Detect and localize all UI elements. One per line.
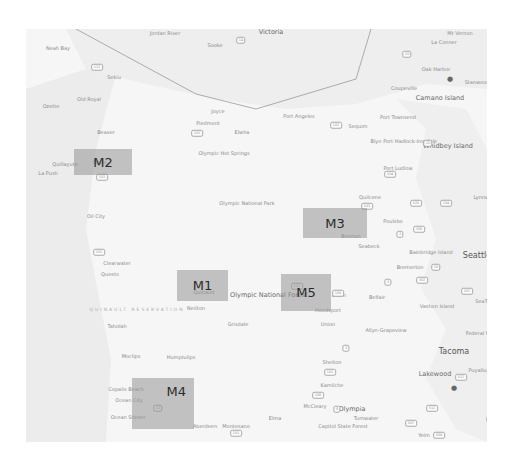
marker-label: M1	[193, 278, 213, 293]
highway-shield: 101	[230, 430, 242, 437]
marker-label: M3	[325, 216, 345, 231]
place-label: Camano Island	[416, 95, 464, 102]
place-label: Oak Harbor	[422, 67, 451, 72]
pacific-ocean	[26, 69, 116, 442]
place-label: Montesano	[222, 424, 249, 429]
marker-m3[interactable]: M3	[303, 208, 367, 238]
place-label: Belfair	[369, 295, 385, 300]
marker-label: M5	[296, 285, 316, 300]
place-label: Port Angeles	[283, 114, 314, 119]
highway-shield: 104	[384, 171, 396, 178]
place-label: Yelm	[418, 433, 430, 438]
place-label: Sooke	[207, 43, 222, 48]
highway-shield: 8	[333, 406, 340, 413]
place-label: Bainbridge Island	[409, 250, 453, 255]
place-label: Grisdale	[228, 322, 249, 327]
place-label: Joyce	[211, 109, 224, 114]
map-canvas[interactable]: Jordan River Sooke Victoria Mt Vernon La…	[26, 29, 487, 442]
place-label: Old Royal	[77, 97, 101, 102]
place-label: Ozette	[43, 104, 60, 109]
place-label: Queets	[101, 272, 119, 277]
place-label: SeaTac	[475, 299, 487, 304]
place-label: Elwha	[235, 130, 250, 135]
place-label: Tumwater	[354, 416, 379, 421]
highway-shield: 106	[332, 290, 344, 297]
highway-shield: 512	[455, 374, 467, 381]
puget-sound	[396, 99, 487, 442]
place-label: Aberdeen	[193, 424, 217, 429]
highway-shield: 101	[324, 369, 336, 376]
place-label: Seabeck	[358, 244, 379, 249]
reservation-label: QUINAULT RESERVATION	[89, 308, 184, 313]
place-label: Poulsbo	[383, 219, 402, 224]
highway-shield: 305	[413, 226, 425, 233]
place-label: Beaver	[97, 130, 115, 135]
place-label: Union	[321, 322, 335, 327]
highway-shield: 16	[431, 264, 440, 271]
place-label: Bremerton	[397, 265, 424, 270]
place-label: Port Ludlow	[383, 166, 412, 171]
highway-shield: 512	[426, 405, 438, 412]
place-label: Jordan River	[150, 31, 180, 36]
place-label: Neilton	[187, 306, 205, 311]
highway-shield: 101	[330, 122, 342, 129]
place-label: Quilcene	[359, 195, 381, 200]
place-label: Kamilche	[321, 383, 344, 388]
map-base	[26, 29, 487, 442]
place-label: La Push	[38, 171, 57, 176]
place-label: McCleary	[303, 404, 326, 409]
highway-shield: 3	[342, 345, 349, 352]
place-label: Mt Vernon	[447, 31, 472, 36]
marker-m1[interactable]: M1	[177, 270, 228, 301]
highway-shield: 3	[396, 231, 403, 238]
highway-shield: 507	[405, 420, 417, 427]
landmark-icon: ●	[451, 384, 457, 392]
highway-shield: 101	[191, 130, 203, 137]
highway-shield: 101	[93, 249, 105, 256]
marker-m4[interactable]: M4	[132, 378, 194, 429]
marker-label: M2	[93, 155, 113, 170]
place-label: Oil City	[87, 214, 105, 219]
place-label: Shelton	[323, 360, 342, 365]
place-label: Elma	[269, 416, 281, 421]
highway-shield: 14	[236, 37, 245, 44]
place-label: Lynnwood	[473, 195, 487, 200]
place-label: Sekiu	[107, 75, 121, 80]
place-label: Humptulips	[167, 355, 196, 360]
place-label: Neah Bay	[46, 46, 70, 51]
place-label: Federal Way	[466, 331, 487, 336]
place-label: Taholah	[107, 324, 126, 329]
place-label: Vashon Island	[420, 304, 455, 309]
highway-shield: 7	[486, 416, 487, 423]
highway-shield: 167	[461, 288, 473, 295]
landmark-icon: ●	[447, 75, 453, 83]
place-label: Capitol State Forest	[318, 424, 367, 429]
place-label: Clearwater	[103, 261, 130, 266]
place-label: Victoria	[259, 29, 284, 35]
place-label: Coupeville	[391, 86, 417, 91]
place-label: Olympic National Park	[219, 201, 274, 206]
place-label: Blyn	[371, 139, 382, 144]
place-label: Olympia	[338, 406, 365, 413]
highway-shield: 112	[91, 64, 103, 71]
highway-shield: 20	[402, 51, 411, 58]
place-label: Tacoma	[439, 348, 469, 356]
place-label: Stanwood	[465, 80, 487, 85]
place-label: Olympic Hot Springs	[198, 151, 249, 156]
place-label: Allyn-Grapeview	[365, 328, 406, 333]
marker-m5[interactable]: M5	[281, 274, 331, 311]
highway-shield: 509	[433, 432, 445, 439]
highway-shield: 525	[410, 200, 422, 207]
place-label: Lakewood	[419, 371, 452, 378]
place-label: Moclips	[122, 354, 141, 359]
place-label: Piedmont	[196, 121, 220, 126]
place-label: La Conner	[431, 40, 456, 45]
highway-shield: 3	[384, 279, 391, 286]
place-label: Sequim	[349, 124, 368, 129]
highway-shield: 108	[312, 392, 324, 399]
place-label: Seattle	[463, 252, 487, 260]
place-label: Port Townsend	[380, 115, 416, 120]
marker-m2[interactable]: M2	[74, 149, 132, 175]
highway-shield: 302	[416, 277, 428, 284]
marker-label: M4	[167, 384, 187, 399]
